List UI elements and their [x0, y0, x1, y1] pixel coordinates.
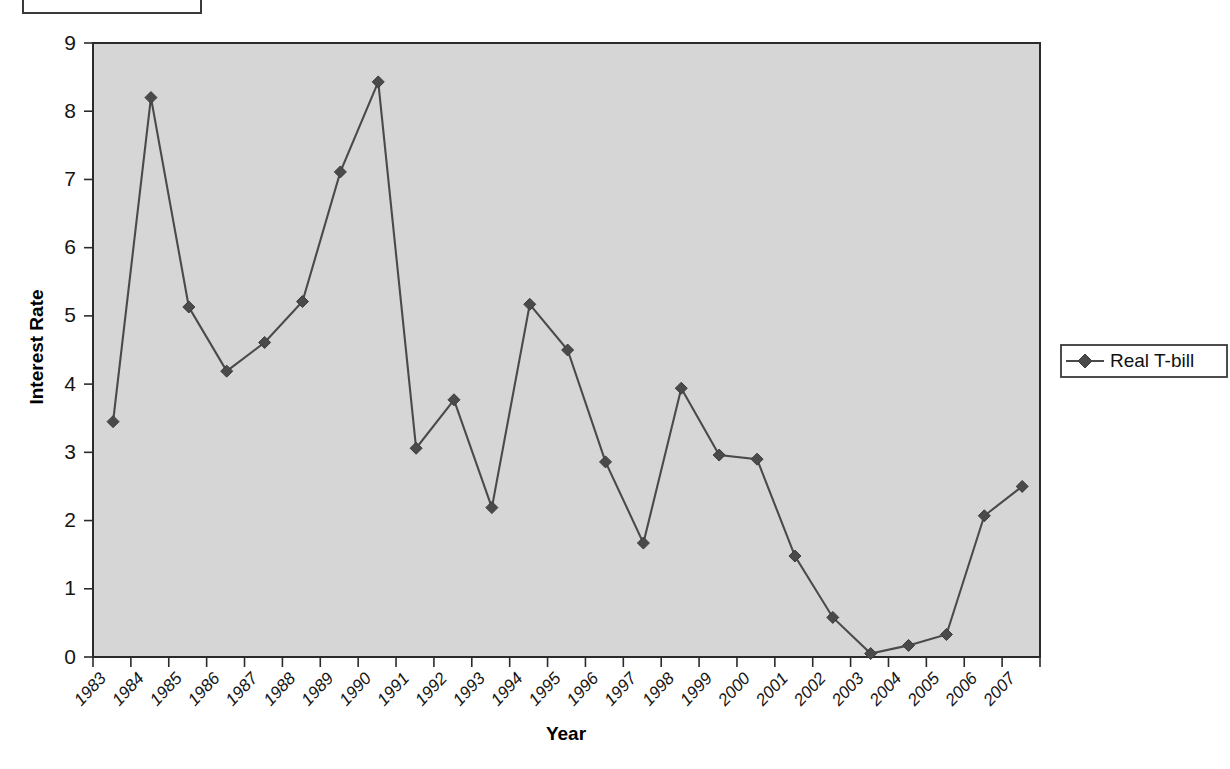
- legend-label-real-t-bill: Real T-bill: [1110, 350, 1194, 371]
- x-axis-tick-labels: 1983198419851986198719881989199019911992…: [70, 668, 1019, 710]
- y-tick-label-0: 0: [64, 645, 76, 668]
- x-tick-label-1984: 1984: [108, 669, 148, 710]
- x-tick-label-2004: 2004: [865, 669, 905, 710]
- x-tick-label-2003: 2003: [827, 668, 868, 710]
- x-axis-ticks: [93, 657, 1040, 667]
- chart-container: 0123456789 19831984198519861987198819891…: [0, 0, 1230, 769]
- x-tick-label-1987: 1987: [222, 668, 262, 709]
- y-tick-label-4: 4: [64, 372, 76, 395]
- x-tick-label-1986: 1986: [184, 668, 224, 709]
- x-tick-label-1990: 1990: [335, 668, 375, 709]
- x-tick-label-2000: 2000: [714, 668, 755, 710]
- y-tick-label-6: 6: [64, 235, 76, 258]
- y-tick-label-7: 7: [64, 167, 76, 190]
- x-tick-label-1997: 1997: [601, 668, 641, 709]
- x-tick-label-2005: 2005: [903, 668, 944, 710]
- x-tick-label-1995: 1995: [525, 668, 565, 709]
- x-tick-label-1994: 1994: [487, 669, 527, 710]
- x-tick-label-2001: 2001: [751, 669, 791, 710]
- x-axis-title: Year: [546, 723, 587, 744]
- x-tick-label-1988: 1988: [260, 668, 300, 709]
- y-axis-title: Interest Rate: [26, 289, 47, 404]
- x-tick-label-1992: 1992: [411, 668, 451, 709]
- x-tick-label-2002: 2002: [789, 668, 830, 710]
- y-tick-label-8: 8: [64, 99, 76, 122]
- y-tick-label-1: 1: [64, 576, 76, 599]
- y-tick-label-9: 9: [64, 31, 76, 54]
- x-tick-label-2007: 2007: [979, 668, 1020, 710]
- x-tick-label-1991: 1991: [373, 669, 413, 710]
- x-tick-label-1999: 1999: [676, 668, 716, 709]
- x-tick-label-1993: 1993: [449, 668, 489, 709]
- legend[interactable]: Real T-bill: [1061, 345, 1227, 377]
- x-tick-label-1985: 1985: [146, 668, 186, 709]
- line-chart: 0123456789 19831984198519861987198819891…: [0, 0, 1230, 769]
- x-tick-label-1998: 1998: [639, 668, 679, 709]
- x-tick-label-1983: 1983: [70, 668, 110, 709]
- x-tick-label-1996: 1996: [563, 668, 603, 709]
- x-tick-label-1989: 1989: [298, 668, 338, 709]
- y-tick-label-5: 5: [64, 303, 76, 326]
- y-tick-label-2: 2: [64, 508, 76, 531]
- y-tick-label-3: 3: [64, 440, 76, 463]
- y-axis-tick-labels: 0123456789: [64, 31, 76, 668]
- x-tick-label-2006: 2006: [941, 668, 982, 710]
- y-axis-ticks: [84, 43, 93, 657]
